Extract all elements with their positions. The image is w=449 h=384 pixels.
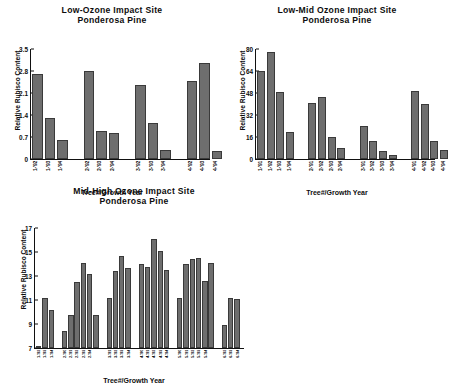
group-spacer xyxy=(398,49,411,159)
x-tick-label: 4-'93 xyxy=(430,161,440,187)
bar-series-1 xyxy=(32,49,224,159)
group-spacer xyxy=(55,350,62,376)
bar-group xyxy=(135,49,173,159)
group-spacer xyxy=(121,49,135,159)
x-tick-label: 4-'92 xyxy=(421,161,431,187)
group-spacer xyxy=(100,228,107,348)
bar xyxy=(267,52,275,159)
group-spacer xyxy=(132,350,139,376)
y-tick-label: 13 xyxy=(25,273,35,280)
x-tick-label: 1-'94 xyxy=(286,161,296,187)
bar xyxy=(145,267,150,349)
bar-group xyxy=(32,49,70,159)
x-tick-label: 2-'91 xyxy=(308,161,318,187)
x-label-group: 5-'905-'915-'925-'935-'94 xyxy=(177,350,215,376)
bar xyxy=(62,331,67,348)
bar xyxy=(96,131,107,159)
bar xyxy=(379,151,387,159)
group-spacer xyxy=(398,161,411,187)
y-tick-label: 3.5 xyxy=(19,46,31,53)
x-tick-label: 5-'93 xyxy=(196,350,202,376)
bar-series-3 xyxy=(36,228,241,348)
y-tick-label: 17 xyxy=(25,225,35,232)
x-tick-label: 3-'91 xyxy=(360,161,370,187)
y-tick-label: 9 xyxy=(28,321,35,328)
bar xyxy=(135,85,146,159)
bar-group xyxy=(222,228,241,348)
bar xyxy=(151,239,156,348)
x-tick-label: 4-'94 xyxy=(164,350,170,376)
bar xyxy=(328,137,336,160)
bar xyxy=(57,140,68,159)
x-tick-label: 2-'93 xyxy=(328,161,338,187)
bar-group xyxy=(308,49,346,159)
bar xyxy=(45,118,56,159)
bar-group xyxy=(411,49,449,159)
y-tick-label: 48 xyxy=(246,90,256,97)
bar xyxy=(318,97,326,159)
x-label-group: 6-'926-'936-'94 xyxy=(222,350,241,376)
x-tick-label: 2-'92 xyxy=(318,161,328,187)
x-tick-label: 4-'94 xyxy=(440,161,449,187)
bar xyxy=(93,315,98,349)
x-tick-label: 4-'91 xyxy=(411,161,421,187)
bar-group xyxy=(62,228,100,348)
bar xyxy=(440,150,448,160)
x-tick-label: 6-'93 xyxy=(228,350,234,376)
chart-title-line-sub: Ponderosa Pine xyxy=(225,16,449,26)
bar xyxy=(190,259,195,348)
x-tick-label xyxy=(93,350,99,376)
bar-group xyxy=(187,49,225,159)
x-tick-label: 1-'94 xyxy=(49,350,55,376)
bar xyxy=(125,268,130,348)
y-tick-label: 64 xyxy=(246,68,256,75)
x-tick-label: 2-'94 xyxy=(337,161,347,187)
chart-low-ozone: Low-Ozone Impact Site Ponderosa Pine Rel… xyxy=(0,0,224,180)
chart-title-2: Low-Mid Ozone Impact Site Ponderosa Pine xyxy=(225,0,449,25)
bar xyxy=(228,298,233,348)
bar xyxy=(337,148,345,159)
bar xyxy=(208,263,213,348)
bar xyxy=(74,282,79,348)
x-tick-label: 3-'92 xyxy=(369,161,379,187)
bar-group xyxy=(360,49,398,159)
x-label-group: 2-'912-'922-'932-'94 xyxy=(308,161,346,187)
y-tick-label: 1.4 xyxy=(19,112,31,119)
bar xyxy=(430,141,438,160)
x-tick-label: 1-'93 xyxy=(276,161,286,187)
x-label-group: 4-'904-'914-'924-'934-'94 xyxy=(139,350,170,376)
group-spacer xyxy=(347,161,360,187)
x-tick-label: 1-'93 xyxy=(42,350,48,376)
bar xyxy=(81,263,86,348)
bar xyxy=(202,281,207,348)
bar xyxy=(160,150,171,159)
x-label-group: 4-'914-'924-'934-'94 xyxy=(411,161,449,187)
x-axis-title-3: Tree#/Growth Year xyxy=(4,377,264,384)
y-tick-label: 0.7 xyxy=(19,134,31,141)
bar xyxy=(411,91,419,159)
bar-group xyxy=(84,49,122,159)
bar xyxy=(68,315,73,349)
y-tick-label: 11 xyxy=(25,297,35,304)
x-tick-label: 5-'94 xyxy=(203,350,209,376)
bar-group xyxy=(177,228,215,348)
bar xyxy=(276,92,284,159)
bar xyxy=(87,274,92,348)
x-label-group: 3-'913-'923-'933-'94 xyxy=(360,161,398,187)
group-spacer xyxy=(132,228,139,348)
x-tick-label: 2-'92 xyxy=(74,350,80,376)
bar-group xyxy=(36,228,55,348)
y-axis-2: 01632486480 xyxy=(255,49,256,159)
y-axis-3: 7911131517 xyxy=(34,228,35,348)
x-label-group: 3-'913-'923-'933-'94 xyxy=(107,350,132,376)
x-tick-label: 4-'92 xyxy=(151,350,157,376)
x-tick-labels-2: 1-'911-'921-'931-'942-'912-'922-'932-'94… xyxy=(257,161,449,187)
bar xyxy=(286,132,294,159)
group-spacer xyxy=(215,228,222,348)
bar xyxy=(257,71,265,159)
group-spacer xyxy=(55,228,62,348)
bar xyxy=(234,299,239,348)
bar xyxy=(369,141,377,160)
group-spacer xyxy=(295,49,308,159)
x-label-group: 1-'921-'931-'94 xyxy=(36,350,55,376)
